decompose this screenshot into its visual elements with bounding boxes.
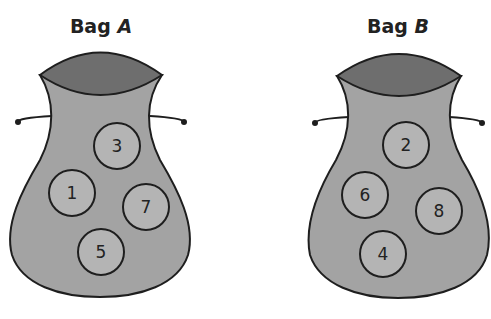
bag-a-string-knot-left	[15, 119, 21, 125]
bag-b-string-left	[315, 117, 349, 123]
bag-b-string-right	[449, 117, 482, 123]
bag-a-string-left	[18, 116, 52, 122]
marble-value: 8	[434, 201, 445, 221]
marble-value: 3	[112, 136, 123, 156]
bag-b: 2 6 8 4	[309, 54, 489, 298]
bag-b-string-knot-right	[479, 120, 485, 126]
bag-b-marble-6: 6	[342, 172, 388, 218]
marble-value: 2	[401, 135, 412, 155]
bag-a-string-knot-right	[181, 119, 187, 125]
marble-value: 4	[378, 244, 389, 264]
bag-a-marble-3: 3	[94, 123, 140, 169]
bag-a-marble-7: 7	[123, 184, 169, 230]
bags-diagram: 3 1 7 5 2 6 8	[0, 0, 491, 319]
marble-value: 5	[96, 242, 107, 262]
bag-b-string-knot-left	[312, 120, 318, 126]
bag-a: 3 1 7 5	[10, 53, 190, 298]
marble-value: 1	[67, 183, 78, 203]
bag-a-marble-1: 1	[49, 170, 95, 216]
bag-b-marble-4: 4	[360, 231, 406, 277]
bag-b-marble-8: 8	[416, 188, 462, 234]
bag-b-marble-2: 2	[383, 122, 429, 168]
bag-a-string-right	[150, 116, 184, 122]
marble-value: 7	[141, 197, 152, 217]
bag-a-marble-5: 5	[78, 229, 124, 275]
marble-value: 6	[360, 185, 371, 205]
